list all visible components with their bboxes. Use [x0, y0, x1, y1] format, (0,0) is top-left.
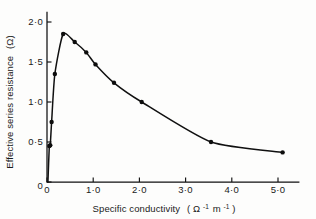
x-axis-unit-close: ) — [232, 203, 235, 214]
x-tick-label: 3·0 — [178, 184, 193, 195]
x-tick-label: 2·0 — [132, 184, 147, 195]
x-axis-tick-marks — [47, 178, 278, 183]
x-tick-label: 5·0 — [271, 184, 286, 195]
x-axis-tick-labels: 01·02·03·04·05·0 — [44, 184, 285, 195]
figure-container: 01·02·03·04·05·0 00·51·01·52·0 Specific … — [0, 0, 316, 219]
y-axis-title-text: Effective series resistance — [4, 56, 15, 169]
data-curve — [48, 33, 283, 182]
y-tick-label: 2·0 — [28, 16, 43, 27]
axes-group — [47, 12, 299, 182]
data-point — [280, 150, 284, 154]
x-axis-title-text: Specific conductivity — [93, 203, 181, 214]
y-tick-label: 1·5 — [28, 56, 43, 67]
x-axis-title: Specific conductivity ( Ω -1 m -1 ) — [93, 200, 236, 215]
chart-plot: 01·02·03·04·05·0 00·51·01·52·0 Specific … — [0, 0, 316, 219]
data-point — [140, 100, 144, 104]
data-point — [112, 81, 116, 85]
data-point — [61, 32, 65, 36]
axis-lines — [47, 12, 299, 182]
data-point — [48, 143, 52, 147]
x-tick-label: 0 — [44, 184, 50, 195]
y-axis-title: Effective series resistance (Ω) — [4, 35, 15, 168]
x-axis-unit-exponent-2: -1 — [223, 203, 229, 210]
x-tick-label: 1·0 — [86, 184, 101, 195]
data-point — [73, 40, 77, 44]
x-axis-unit-open: ( — [187, 203, 191, 214]
y-tick-label: 0·5 — [28, 136, 43, 147]
y-axis-unit: (Ω) — [4, 35, 15, 49]
data-point — [209, 140, 213, 144]
data-point — [93, 62, 97, 66]
data-point — [84, 50, 88, 54]
x-axis-unit-metre: m — [213, 203, 221, 214]
x-axis-unit-omega: Ω — [193, 203, 200, 214]
y-tick-label: 1·0 — [28, 96, 43, 107]
data-series-group — [47, 32, 285, 182]
y-axis-title-group: Effective series resistance (Ω) — [4, 35, 15, 168]
x-tick-label: 4·0 — [224, 184, 239, 195]
x-axis-unit-exponent-1: -1 — [203, 203, 209, 210]
data-point — [49, 120, 53, 124]
data-point-markers — [47, 32, 285, 155]
y-axis-tick-labels: 00·51·01·52·0 — [28, 16, 43, 191]
data-point — [53, 72, 57, 76]
y-tick-label: 0 — [37, 180, 43, 191]
x-axis-title-group: Specific conductivity ( Ω -1 m -1 ) — [93, 200, 236, 215]
